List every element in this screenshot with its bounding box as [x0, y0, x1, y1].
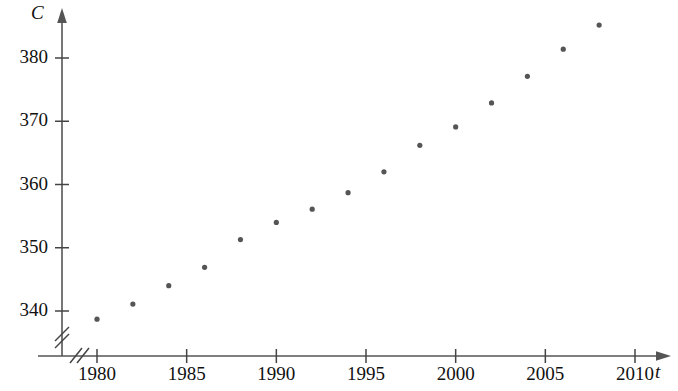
- data-point: [238, 237, 243, 242]
- plot-canvas: [0, 0, 678, 391]
- data-point: [597, 23, 602, 28]
- data-point: [310, 207, 315, 212]
- x-axis-arrow-icon: [656, 351, 671, 361]
- data-point: [417, 143, 422, 148]
- x-tick-label: 1980: [57, 363, 137, 385]
- y-axis-title: C: [31, 2, 44, 24]
- x-tick-label: 1995: [326, 363, 406, 385]
- x-tick-label: 1985: [147, 363, 227, 385]
- data-point: [166, 283, 171, 288]
- data-point: [525, 74, 530, 79]
- x-tick-label: 2000: [416, 363, 496, 385]
- y-tick-label: 340: [0, 299, 48, 321]
- data-point: [202, 265, 207, 270]
- data-point: [94, 317, 99, 322]
- x-tick-label: 2010: [595, 363, 675, 385]
- data-point: [345, 190, 350, 195]
- scatter-plot-figure: C t 340350360370380 19801985199019952000…: [0, 0, 678, 391]
- y-tick-label: 370: [0, 109, 48, 131]
- y-tick-label: 380: [0, 46, 48, 68]
- data-point-series: [94, 23, 601, 322]
- data-point: [561, 47, 566, 52]
- x-tick-label: 2005: [505, 363, 585, 385]
- axes-group: [38, 8, 671, 363]
- y-axis-arrow-icon: [57, 8, 67, 23]
- data-point: [130, 301, 135, 306]
- y-tick-label: 360: [0, 173, 48, 195]
- data-point: [274, 220, 279, 225]
- y-tick-label: 350: [0, 236, 48, 258]
- data-point: [381, 169, 386, 174]
- data-point: [489, 100, 494, 105]
- x-tick-label: 1990: [236, 363, 316, 385]
- data-point: [453, 124, 458, 129]
